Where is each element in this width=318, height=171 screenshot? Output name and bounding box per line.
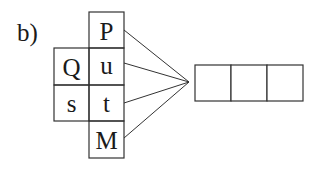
letter-u: u bbox=[100, 52, 113, 79]
connector-t bbox=[124, 82, 189, 103]
letter-p: P bbox=[100, 18, 114, 45]
answer-box-3 bbox=[267, 65, 303, 101]
answer-box-2 bbox=[231, 65, 267, 101]
letter-s: s bbox=[67, 90, 77, 117]
connector-p bbox=[124, 30, 189, 82]
connector-u bbox=[124, 63, 189, 82]
answer-box-1 bbox=[195, 65, 231, 101]
connector-m bbox=[124, 82, 189, 138]
answer-boxes bbox=[195, 65, 303, 101]
letter-m: M bbox=[95, 127, 117, 154]
letter-t: t bbox=[103, 90, 110, 117]
connector-lines bbox=[124, 30, 189, 138]
letter-q: Q bbox=[62, 54, 80, 81]
word-diagram: P Q u s t M bbox=[0, 0, 318, 171]
